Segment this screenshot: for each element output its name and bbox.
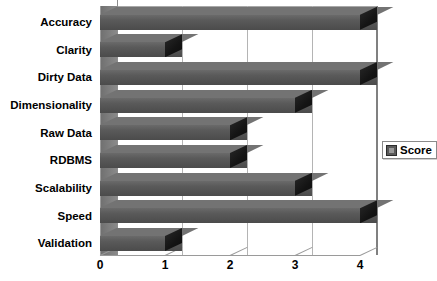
bar-front-face (100, 15, 377, 30)
category-label: Raw Data (40, 127, 92, 139)
bar (100, 90, 312, 113)
category-label: Speed (57, 210, 92, 222)
plot-area: 01234 (96, 0, 396, 281)
x-tick-label: 3 (285, 258, 305, 272)
category-label: Validation (38, 237, 92, 249)
bar-front-face (100, 98, 312, 113)
bar (100, 145, 247, 168)
chart-legend: Score (382, 141, 437, 159)
bar-top-face (100, 173, 328, 181)
bar (100, 62, 377, 85)
legend-label-score: Score (400, 144, 432, 156)
bar-top-face (100, 228, 198, 236)
bar (100, 34, 182, 57)
category-label: Clarity (56, 44, 92, 56)
category-label: Scalability (35, 182, 92, 194)
x-tick-label: 1 (155, 258, 175, 272)
x-tick-label: 4 (350, 258, 370, 272)
bar (100, 228, 182, 251)
category-label: Accuracy (40, 16, 92, 28)
x-tick-label: 0 (90, 258, 110, 272)
gridline (377, 6, 378, 255)
category-label: Dimensionality (10, 99, 92, 111)
bar (100, 7, 377, 30)
category-label: Dirty Data (38, 71, 92, 83)
bar-top-face (100, 7, 393, 15)
bar-top-face (100, 200, 393, 208)
bar-front-face (100, 70, 377, 85)
bar (100, 173, 312, 196)
category-label: RDBMS (50, 154, 92, 166)
x-tick-label: 2 (220, 258, 240, 272)
bar-front-face (100, 153, 247, 168)
bar-front-face (100, 125, 247, 140)
bar-top-face (100, 34, 198, 42)
bar (100, 117, 247, 140)
bar-top-face (100, 62, 393, 70)
bar-top-face (100, 90, 328, 98)
bar (100, 200, 377, 223)
legend-swatch-score-icon (386, 145, 397, 156)
bar-front-face (100, 181, 312, 196)
bar-front-face (100, 208, 377, 223)
category-axis-labels: AccuracyClarityDirty DataDimensionalityR… (0, 0, 96, 281)
